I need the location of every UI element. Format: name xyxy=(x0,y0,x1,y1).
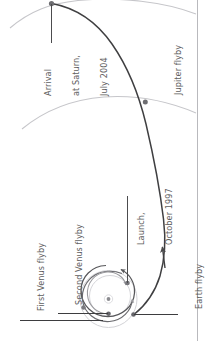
cruise-loop-outer xyxy=(81,266,135,317)
marker-first-venus-flyby xyxy=(81,305,85,309)
jupiters-orbit-arc xyxy=(22,97,196,129)
saturns-orbit-arc xyxy=(10,0,196,28)
trajectory-vector-graphic xyxy=(0,0,205,341)
diagram-canvas: Arrival at Saturn, July 2004 Jupiter fly… xyxy=(0,0,205,341)
sun-marker xyxy=(107,297,111,301)
marker-jupiter-flyby xyxy=(143,100,148,105)
cassini-trajectory-main xyxy=(52,4,165,315)
